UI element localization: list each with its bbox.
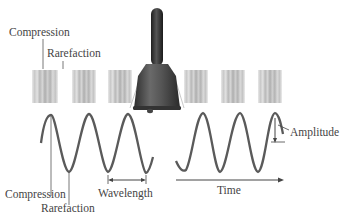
time-label: Time <box>217 185 241 197</box>
wavelength-label: Wavelength <box>98 188 153 200</box>
sound-band <box>221 70 245 103</box>
sound-bands-left <box>32 70 132 103</box>
amplitude-label: Amplitude <box>290 127 339 139</box>
sound-band <box>108 70 132 103</box>
sound-band <box>32 70 58 103</box>
rarefaction-label-top: Rarefaction <box>47 48 101 60</box>
compression-label-bottom: Compression <box>5 189 66 201</box>
wave-right <box>176 113 283 172</box>
wave-left <box>41 114 153 173</box>
time-axis-arrow <box>176 178 284 183</box>
sound-band <box>72 70 96 103</box>
wavelength-marker <box>108 175 146 184</box>
compression-label-top: Compression <box>9 27 70 39</box>
sound-bands-right <box>184 70 282 103</box>
sound-band <box>184 70 208 103</box>
sound-band <box>258 70 282 103</box>
rarefaction-label-bottom: Rarefaction <box>41 203 95 215</box>
bell-icon <box>130 8 184 113</box>
